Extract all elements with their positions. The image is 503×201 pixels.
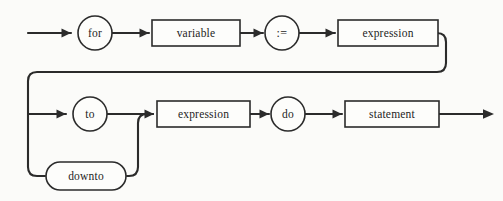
arrow-head-to [57,110,67,119]
to-label: to [85,108,94,120]
node-downto[interactable]: downto [46,162,126,190]
assign-label: := [276,26,287,40]
node-expression-upper[interactable]: expression [338,20,438,46]
arrow-head-entry [62,29,72,38]
downto-label: downto [68,170,104,182]
node-do[interactable]: do [271,97,305,131]
railroad-diagram-svg: for variable := expression to downto [0,0,503,201]
arrow-head-statement [333,110,343,119]
arrow-head-expression-upper [326,29,336,38]
do-label: do [282,108,294,120]
node-variable[interactable]: variable [152,20,240,46]
node-to[interactable]: to [73,97,107,131]
node-expression-lower[interactable]: expression [157,101,250,127]
rail-downto-merge [127,114,153,176]
arrow-head-variable [140,29,150,38]
node-assign[interactable]: := [265,16,299,50]
syntax-diagram: for variable := expression to downto [0,0,503,201]
for-label: for [88,27,102,39]
arrow-head-expression-lower [145,110,155,119]
arrow-head-assign [254,29,264,38]
arrow-head-do [260,110,270,119]
expression-upper-label: expression [362,27,413,40]
arrow-head-exit [483,109,494,119]
variable-label: variable [177,27,216,39]
expression-lower-label: expression [178,108,229,121]
statement-label: statement [369,108,415,120]
node-statement[interactable]: statement [345,101,439,127]
node-for[interactable]: for [78,16,112,50]
rail-branch-to-downto [28,114,45,176]
